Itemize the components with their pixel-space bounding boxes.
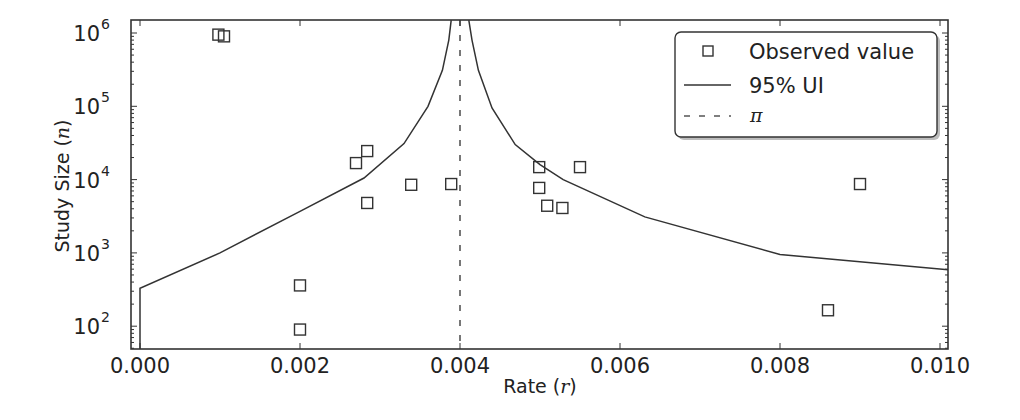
observed-point-marker	[406, 179, 417, 190]
observed-point-marker	[351, 158, 362, 169]
observed-point-marker	[557, 202, 568, 213]
y-tick-exponent: 3	[101, 236, 110, 252]
y-tick-label: 10	[73, 315, 100, 339]
observed-point-marker	[534, 182, 545, 193]
observed-point-marker	[446, 179, 457, 190]
observed-point-marker	[362, 146, 373, 157]
y-tick-label: 10	[73, 242, 100, 266]
x-tick-label: 0.010	[910, 354, 970, 378]
legend-label-observed: Observed value	[749, 40, 914, 64]
observed-point-marker	[542, 200, 553, 211]
observed-point-marker	[575, 162, 586, 173]
observed-point-marker	[855, 179, 866, 190]
observed-point-marker	[295, 280, 306, 291]
y-tick-exponent: 4	[101, 163, 110, 179]
legend: Observed value 95% UI π	[675, 32, 940, 140]
y-tick-exponent: 5	[101, 89, 110, 105]
x-tick-label: 0.008	[750, 354, 810, 378]
x-tick-label: 0.006	[590, 354, 650, 378]
observed-point-marker	[362, 197, 373, 208]
x-tick-label: 0.004	[430, 354, 490, 378]
y-tick-exponent: 2	[101, 309, 110, 325]
y-tick-label: 10	[73, 95, 100, 119]
y-tick-labels: 102103104105106	[73, 16, 110, 339]
y-axis-label: Study Size (n)	[51, 119, 73, 252]
x-axis-label: Rate (r)	[503, 375, 577, 397]
legend-label-pi: π	[749, 104, 763, 126]
y-tick-exponent: 6	[101, 16, 110, 32]
y-tick-label: 10	[73, 22, 100, 46]
y-tick-label: 10	[73, 169, 100, 193]
observed-point-marker	[823, 305, 834, 316]
observed-point-marker	[295, 324, 306, 335]
x-tick-label: 0.002	[270, 354, 330, 378]
ui-curve	[140, 20, 451, 349]
chart: 0.0000.0020.0040.0060.0080.010 102103104…	[0, 0, 1020, 420]
x-tick-label: 0.000	[110, 354, 170, 378]
legend-label-ui: 95% UI	[749, 74, 824, 98]
